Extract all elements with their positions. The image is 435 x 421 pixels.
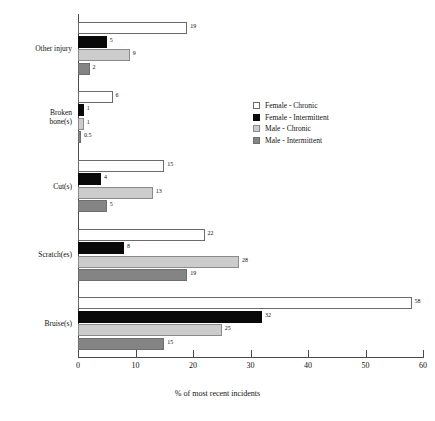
bar-group: Cut(s)154135 <box>78 160 423 213</box>
category-label: Other injury <box>2 44 72 53</box>
bar[interactable] <box>78 338 164 350</box>
bar[interactable] <box>78 22 187 34</box>
bar-value-label: 8 <box>127 243 130 249</box>
category-label: Bruise(s) <box>2 319 72 328</box>
legend-swatch-icon <box>253 102 260 109</box>
bar-value-label: 15 <box>167 339 173 345</box>
bar-row: 19 <box>78 269 423 281</box>
bar-value-label: 32 <box>265 312 271 318</box>
bar-group: Other injury19592 <box>78 22 423 75</box>
bar-value-label: 2 <box>93 64 96 70</box>
bar[interactable] <box>78 131 81 143</box>
x-axis-title: % of most recent incidents <box>0 389 435 398</box>
x-axis-tick-label: 30 <box>247 361 255 370</box>
legend-item[interactable]: Female - Intermittent <box>253 112 329 124</box>
bar-row: 0.5 <box>78 131 423 143</box>
bar-value-label: 28 <box>242 257 248 263</box>
bar-value-label: 0.5 <box>84 132 92 138</box>
bar[interactable] <box>78 324 222 336</box>
bar[interactable] <box>78 200 107 212</box>
bar-row: 22 <box>78 229 423 241</box>
x-axis-tick <box>423 350 424 358</box>
bar-value-label: 19 <box>190 23 196 29</box>
legend-label: Female - Intermittent <box>265 112 329 124</box>
x-axis-tick-label: 0 <box>76 361 80 370</box>
bar-row: 25 <box>78 324 423 336</box>
bar-row: 1 <box>78 118 423 130</box>
bar-value-label: 5 <box>110 37 113 43</box>
legend-item[interactable]: Female - Chronic <box>253 100 329 112</box>
bar-group: Scratch(es)2282819 <box>78 229 423 282</box>
bar-row: 15 <box>78 160 423 172</box>
bar-row: 1 <box>78 104 423 116</box>
x-axis-tick-label: 20 <box>189 361 197 370</box>
bar-row: 15 <box>78 338 423 350</box>
bar[interactable] <box>78 91 113 103</box>
bar-row: 5 <box>78 200 423 212</box>
bar-value-label: 9 <box>133 50 136 56</box>
bar-value-label: 15 <box>167 161 173 167</box>
bar-value-label: 13 <box>156 188 162 194</box>
bar-row: 8 <box>78 242 423 254</box>
bar-group: Bruise(s)58322515 <box>78 297 423 350</box>
bar-row: 58 <box>78 297 423 309</box>
legend-label: Female - Chronic <box>265 100 318 112</box>
legend-swatch-icon <box>253 114 260 121</box>
bar[interactable] <box>78 118 84 130</box>
bar-row: 32 <box>78 311 423 323</box>
legend-label: Male - Chronic <box>265 123 311 135</box>
category-label: Cut(s) <box>2 182 72 191</box>
bar-row: 5 <box>78 36 423 48</box>
category-label: Broken bone(s) <box>2 108 72 126</box>
bar-row: 9 <box>78 49 423 61</box>
bar-value-label: 1 <box>87 119 90 125</box>
bar-row: 2 <box>78 63 423 75</box>
x-axis-tick-label: 10 <box>132 361 140 370</box>
chart-legend: Female - ChronicFemale - IntermittentMal… <box>253 100 329 146</box>
legend-swatch-icon <box>253 125 260 132</box>
bar-value-label: 5 <box>110 201 113 207</box>
bar[interactable] <box>78 269 187 281</box>
bar[interactable] <box>78 311 262 323</box>
legend-label: Male - Intermittent <box>265 135 322 147</box>
bar[interactable] <box>78 187 153 199</box>
bar-row: 4 <box>78 173 423 185</box>
bar[interactable] <box>78 242 124 254</box>
legend-item[interactable]: Male - Chronic <box>253 123 329 135</box>
legend-item[interactable]: Male - Intermittent <box>253 135 329 147</box>
bar[interactable] <box>78 160 164 172</box>
bar-value-label: 4 <box>104 174 107 180</box>
bar-chart: 0102030405060 Other injury19592Broken bo… <box>0 0 435 421</box>
bar-row: 28 <box>78 256 423 268</box>
bar-value-label: 19 <box>190 270 196 276</box>
bar[interactable] <box>78 297 412 309</box>
legend-swatch-icon <box>253 137 260 144</box>
bar-value-label: 58 <box>415 298 421 304</box>
bar-group: Broken bone(s)6110.5 <box>78 91 423 144</box>
bar[interactable] <box>78 49 130 61</box>
bar-value-label: 1 <box>87 105 90 111</box>
bar-value-label: 22 <box>208 230 214 236</box>
bar-row: 6 <box>78 91 423 103</box>
bar[interactable] <box>78 173 101 185</box>
category-label: Scratch(es) <box>2 250 72 259</box>
x-axis-tick-label: 50 <box>362 361 370 370</box>
bar-row: 13 <box>78 187 423 199</box>
bar-value-label: 25 <box>225 325 231 331</box>
plot-area: Other injury19592Broken bone(s)6110.5Cut… <box>78 14 423 358</box>
bar[interactable] <box>78 104 84 116</box>
bar-row: 19 <box>78 22 423 34</box>
bar[interactable] <box>78 229 205 241</box>
bar[interactable] <box>78 63 90 75</box>
x-axis-tick-label: 40 <box>304 361 312 370</box>
bar-value-label: 6 <box>116 92 119 98</box>
bar[interactable] <box>78 256 239 268</box>
x-axis-tick-label: 60 <box>419 361 427 370</box>
bar[interactable] <box>78 36 107 48</box>
